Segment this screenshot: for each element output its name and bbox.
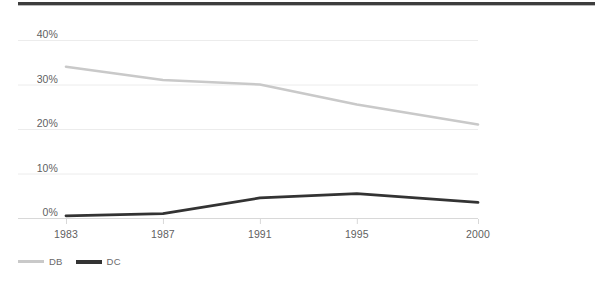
- legend-item-dc[interactable]: DC: [76, 256, 121, 267]
- legend-label-dc: DC: [107, 256, 121, 267]
- y-tick-label: 30%: [14, 73, 58, 85]
- chart-legend: DB DC: [18, 256, 121, 267]
- legend-label-db: DB: [49, 256, 63, 267]
- x-tick-marks-group: [67, 219, 479, 224]
- y-tick-label: 40%: [14, 28, 58, 40]
- x-tick-label: 1987: [140, 228, 186, 240]
- x-tick-label: 1995: [334, 228, 380, 240]
- legend-line-swatch-db: [18, 260, 44, 263]
- legend-item-db[interactable]: DB: [18, 256, 63, 267]
- line-chart-figure: 0%10%20%30%40% 19831987199119952000: [0, 0, 600, 282]
- chart-plot-area: [0, 0, 600, 282]
- x-tick-label: 1983: [43, 228, 89, 240]
- series-line-dc[interactable]: [66, 194, 478, 216]
- chart-screenshot: 0%10%20%30%40% 19831987199119952000 DB D…: [0, 0, 600, 282]
- y-tick-label: 0%: [14, 206, 58, 218]
- series-lines-group: [66, 67, 478, 216]
- x-tick-label: 1991: [237, 228, 283, 240]
- gridlines-group: [18, 41, 478, 175]
- y-tick-label: 10%: [14, 162, 58, 174]
- legend-line-swatch-dc: [76, 260, 102, 264]
- y-tick-label: 20%: [14, 117, 58, 129]
- series-line-db[interactable]: [66, 67, 478, 125]
- x-tick-label: 2000: [455, 228, 501, 240]
